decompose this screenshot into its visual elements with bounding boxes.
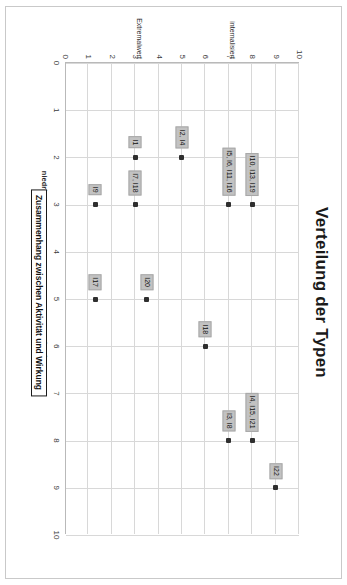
x-tick-label: 9 <box>52 476 61 500</box>
data-point <box>133 155 138 160</box>
y-category-label: Extremalwert <box>136 0 143 59</box>
data-point <box>250 202 255 207</box>
y-gridline <box>158 63 159 534</box>
data-point-label: I9 <box>89 184 102 196</box>
data-point-label: I3, I8 <box>222 410 235 432</box>
x-gridline <box>66 205 299 206</box>
data-point-label: I17 <box>89 274 102 290</box>
x-tick-label: 4 <box>52 240 61 264</box>
y-gridline <box>111 63 112 534</box>
x-gridline <box>66 488 299 489</box>
data-point-label: I18 <box>199 321 212 337</box>
data-point-label: I1 <box>129 137 142 149</box>
data-point-label: I4, I15, I21 <box>246 393 259 432</box>
y-tick-label: 4 <box>155 41 164 59</box>
y-tick-label: 1 <box>84 41 93 59</box>
x-gridline <box>66 299 299 300</box>
data-point <box>226 438 231 443</box>
data-point-label: I20 <box>140 274 153 290</box>
data-point-label: I10, I13, I19 <box>246 153 259 196</box>
data-point <box>180 155 185 160</box>
x-tick-label: 1 <box>52 98 61 122</box>
data-point <box>93 297 98 302</box>
data-point <box>203 344 208 349</box>
y-category-label: internalisiert <box>229 0 236 59</box>
y-tick-label: 5 <box>178 41 187 59</box>
y-tick-label: 10 <box>295 41 304 59</box>
x-tick-label: 3 <box>52 193 61 217</box>
y-tick-label: 2 <box>108 41 117 59</box>
y-tick-label: 8 <box>248 41 257 59</box>
chart-figure: Verteilung der Typen 0123456789100123456… <box>0 0 347 585</box>
x-tick-label: 5 <box>52 287 61 311</box>
x-gridline <box>66 252 299 253</box>
x-axis-title: Zusammenhang zwischen Aktivität und Wirk… <box>31 189 47 396</box>
y-gridline <box>228 63 229 534</box>
data-point-label: I5, I6, I11, I16 <box>222 147 235 195</box>
data-point <box>93 202 98 207</box>
x-tick-label: 8 <box>52 429 61 453</box>
data-point <box>273 485 278 490</box>
x-tick-label: 2 <box>52 145 61 169</box>
x-gridline <box>66 535 299 536</box>
x-gridline <box>66 346 299 347</box>
y-gridline <box>87 63 88 534</box>
x-tick-label: 10 <box>52 523 61 547</box>
data-point <box>133 202 138 207</box>
data-point-label: I7, I18 <box>129 170 142 195</box>
data-point <box>226 202 231 207</box>
data-point <box>144 297 149 302</box>
x-gridline <box>66 110 299 111</box>
x-tick-label: 6 <box>52 334 61 358</box>
plot-area: 012345678910012345678910niedrighochinter… <box>65 62 299 534</box>
y-tick-label: 9 <box>272 41 281 59</box>
y-gridline <box>204 63 205 534</box>
y-gridline <box>251 63 252 534</box>
x-tick-label: 7 <box>52 381 61 405</box>
x-tick-label: 0 <box>52 51 61 75</box>
data-point-label: I22 <box>269 463 282 479</box>
data-point-label: I2, I4 <box>176 127 189 149</box>
y-tick-label: 6 <box>201 41 210 59</box>
y-gridline <box>298 63 299 534</box>
x-gridline <box>66 393 299 394</box>
page-title: Verteilung der Typen <box>311 0 331 585</box>
x-gridline <box>66 63 299 64</box>
rotated-figure-wrapper: Verteilung der Typen 0123456789100123456… <box>0 0 347 585</box>
y-gridline <box>134 63 135 534</box>
x-gridline <box>66 441 299 442</box>
figure-page: Verteilung der Typen 0123456789100123456… <box>0 0 347 585</box>
y-tick-label: 0 <box>61 41 70 59</box>
data-point <box>250 438 255 443</box>
